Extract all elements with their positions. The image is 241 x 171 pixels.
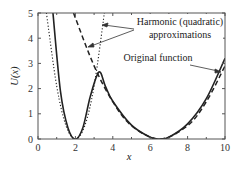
y-tick-label: 3: [28, 58, 33, 69]
y-tick-label: 4: [28, 33, 33, 44]
x-tick-label: 0: [36, 142, 41, 153]
y-tick-label: 1: [28, 108, 33, 119]
annotation-harmonic-line2: approximations: [149, 29, 211, 40]
y-axis-label: U(x): [9, 66, 21, 86]
chart: 0246810012345 x U(x) Harmonic (quadratic…: [0, 0, 241, 171]
y-tick-label: 2: [28, 83, 33, 94]
x-tick-label: 10: [220, 142, 230, 153]
x-axis-label: x: [126, 151, 132, 162]
annotation-original: Original function: [123, 52, 192, 63]
x-tick-label: 8: [185, 142, 190, 153]
x-tick-label: 2: [73, 142, 78, 153]
y-tick-label: 5: [28, 8, 33, 19]
annotation-harmonic-line1: Harmonic (quadratic): [137, 16, 223, 28]
x-tick-label: 4: [110, 142, 115, 153]
y-tick-label: 0: [28, 134, 33, 145]
x-tick-label: 6: [148, 142, 153, 153]
